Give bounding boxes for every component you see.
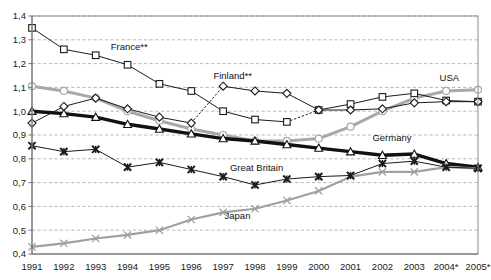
- series-segment: [351, 109, 383, 110]
- x-tick-label: 2005*: [466, 261, 491, 272]
- series-segment: [128, 162, 160, 167]
- x-tick-label: 1996: [181, 261, 202, 272]
- series-segment: [223, 86, 255, 91]
- data-point-marker: [124, 61, 131, 68]
- y-tick-label: 1,1: [13, 82, 26, 93]
- x-tick-label: 1995: [149, 261, 170, 272]
- xtick-label-layer: 1991199219931994199519961997199819992000…: [21, 261, 490, 272]
- y-tick-label: 1,4: [13, 10, 26, 21]
- series-segment: [32, 28, 64, 49]
- data-point-marker: [188, 88, 195, 95]
- series-segment: [382, 93, 414, 97]
- x-tick-label: 1992: [53, 261, 74, 272]
- series-segment: [159, 162, 191, 169]
- data-point-marker: [347, 123, 354, 130]
- data-point-marker: [284, 119, 291, 126]
- data-point-marker: [379, 94, 386, 101]
- series-segment: [255, 179, 287, 185]
- y-tick-label: 0,5: [13, 225, 26, 236]
- series-segment: [223, 139, 255, 141]
- data-point-marker: [411, 90, 418, 97]
- ytick-label-layer: 0,40,50,60,70,80,91,01,11,21,31,4: [13, 10, 26, 259]
- series-segment: [287, 145, 319, 149]
- series-segment: [351, 172, 383, 177]
- series-segment: [351, 111, 383, 126]
- series-japan: [28, 164, 481, 251]
- series-segment: [191, 170, 223, 177]
- data-point-marker: [315, 135, 322, 142]
- x-tick-label: 1999: [276, 261, 297, 272]
- series-segment: [159, 129, 191, 134]
- data-point-marker: [283, 89, 291, 97]
- series-segment: [319, 148, 351, 152]
- series-segment: [159, 219, 191, 230]
- series-annotation: USA: [440, 72, 460, 83]
- x-tick-label: 2000: [308, 261, 329, 272]
- x-tick-label: 1994: [117, 261, 138, 272]
- series-segment: [414, 167, 446, 172]
- data-point-marker: [251, 87, 259, 95]
- y-tick-label: 0,9: [13, 129, 26, 140]
- series-segment: [319, 104, 351, 110]
- series-segment: [255, 120, 287, 122]
- series-segment: [32, 86, 64, 91]
- series-segment: [223, 177, 255, 185]
- x-tick-label: 2004*: [434, 261, 459, 272]
- y-tick-label: 0,7: [13, 177, 26, 188]
- series-segment: [64, 91, 96, 98]
- data-point-marker: [156, 81, 163, 88]
- series-segment: [191, 212, 223, 219]
- series-segment: [319, 177, 351, 191]
- series-segment: [96, 98, 128, 109]
- data-point-marker: [443, 87, 450, 94]
- series-segment: [319, 127, 351, 139]
- series-segment: [255, 91, 287, 93]
- data-point-marker: [60, 102, 68, 110]
- data-point-marker: [61, 46, 68, 53]
- y-tick-label: 1,2: [13, 58, 26, 69]
- series-segment: [64, 98, 96, 106]
- y-tick-label: 0,6: [13, 201, 26, 212]
- data-point-marker: [60, 87, 67, 94]
- series-segment: [64, 49, 96, 55]
- y-tick-label: 0,4: [13, 248, 26, 259]
- x-tick-label: 1991: [21, 261, 42, 272]
- series-layer: [28, 25, 482, 251]
- series-segment: [446, 90, 478, 91]
- series-segment: [128, 230, 160, 235]
- series-annotation: Germany: [372, 132, 411, 143]
- series-annotation: Japan: [225, 210, 251, 221]
- x-tick-label: 2003: [404, 261, 425, 272]
- line-chart: 0,40,50,60,70,80,91,01,11,21,31,4 199119…: [0, 0, 491, 280]
- x-tick-label: 1998: [244, 261, 265, 272]
- series-segment: [32, 146, 64, 152]
- series-segment: [64, 114, 96, 118]
- data-point-marker: [92, 52, 99, 59]
- series-segment: [191, 91, 223, 111]
- x-tick-label: 2002: [372, 261, 393, 272]
- series-segment: [382, 98, 414, 111]
- series-segment: [159, 84, 191, 91]
- series-annotation: Great Britain: [230, 162, 283, 173]
- x-tick-label: 1997: [213, 261, 234, 272]
- chart-container: 0,40,50,60,70,80,91,01,11,21,31,4 199119…: [0, 0, 491, 280]
- series-segment: [287, 110, 319, 122]
- y-tick-label: 1,3: [13, 34, 26, 45]
- data-point-marker: [188, 166, 195, 173]
- series-segment: [382, 154, 414, 155]
- y-tick-label: 1,0: [13, 106, 26, 117]
- series-segment: [351, 97, 383, 104]
- series-segment: [223, 111, 255, 119]
- data-point-marker: [220, 108, 227, 115]
- series-segment: [128, 124, 160, 129]
- y-tick-label: 0,8: [13, 153, 26, 164]
- series-segment: [382, 161, 414, 163]
- series-segment: [351, 152, 383, 156]
- series-annotation: France**: [111, 41, 148, 52]
- data-point-marker: [220, 173, 227, 180]
- series-annotation: Finland**: [213, 70, 252, 81]
- series-segment: [64, 239, 96, 244]
- series-segment: [319, 175, 351, 176]
- series-segment: [32, 243, 64, 247]
- series-segment: [32, 111, 64, 113]
